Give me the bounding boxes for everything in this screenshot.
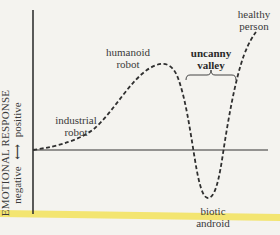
label-humanoid-robot: humanoid robot [98, 46, 158, 70]
chart-canvas [0, 0, 280, 235]
y-axis-negative: negative [11, 166, 23, 203]
uncanny-valley-bracket [186, 70, 236, 80]
label-biotic-android: biotic android [183, 205, 243, 229]
double-arrow-icon: ⟷ [11, 140, 23, 164]
label-industrial-robot: industrial robot [46, 114, 106, 138]
uncanny-valley-figure: industrial robot humanoid robot uncanny … [0, 0, 280, 235]
y-axis-scale: negative ⟷ positive [11, 86, 23, 220]
label-uncanny-valley: uncanny valley [181, 47, 241, 71]
y-axis-label: EMOTIONAL RESPONSE negative ⟷ positive [0, 86, 23, 220]
label-healthy-person: healthy person [229, 8, 279, 32]
y-axis-positive: positive [11, 102, 23, 137]
y-axis-title: EMOTIONAL RESPONSE [0, 86, 11, 220]
